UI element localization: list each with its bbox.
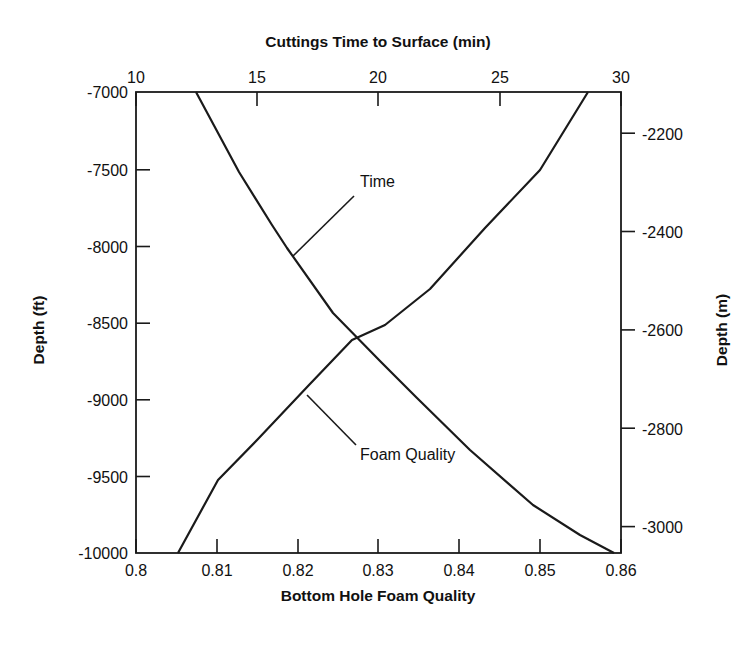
top-tick-label: 10 [127, 69, 145, 86]
bottom-tick-label: 0.82 [282, 562, 313, 579]
top-axis-ticks [136, 92, 621, 106]
foam-quality-leader-line [307, 395, 356, 445]
top-tick-label: 20 [369, 69, 387, 86]
top-axis-title: Cuttings Time to Surface (min) [265, 33, 490, 50]
bottom-tick-label: 0.81 [201, 562, 232, 579]
bottom-tick-label: 0.86 [605, 562, 636, 579]
right-tick-label: -3000 [642, 519, 683, 536]
foam-quality-curve [178, 92, 588, 553]
right-tick-label: -2200 [642, 126, 683, 143]
bottom-tick-label: 0.85 [524, 562, 555, 579]
bottom-tick-label: 0.84 [443, 562, 474, 579]
right-axis-ticks [621, 133, 635, 526]
right-axis-title: Depth (m) [713, 294, 730, 366]
left-tick-label: -8500 [87, 315, 128, 332]
top-tick-label: 15 [248, 69, 266, 86]
left-tick-label: -10000 [78, 545, 128, 562]
right-tick-label: -2800 [642, 421, 683, 438]
left-tick-label: -8000 [87, 239, 128, 256]
bottom-axis-ticks [136, 539, 621, 553]
foam-quality-series-label: Foam Quality [360, 446, 455, 463]
right-tick-label: -2400 [642, 224, 683, 241]
left-axis-ticks [136, 170, 150, 477]
bottom-tick-label: 0.83 [362, 562, 393, 579]
chart-container: Cuttings Time to Surface (min) 10 15 20 … [0, 0, 752, 645]
time-curve [196, 92, 614, 553]
right-tick-label: -2600 [642, 322, 683, 339]
left-axis-tick-labels: -7000 -7500 -8000 -8500 -9000 -9500 -100… [78, 84, 128, 562]
chart-plot: Cuttings Time to Surface (min) 10 15 20 … [0, 0, 752, 645]
left-axis-title: Depth (ft) [30, 296, 47, 365]
top-axis-tick-labels: 10 15 20 25 30 [127, 69, 630, 86]
bottom-tick-label: 0.8 [125, 562, 147, 579]
time-series-label: Time [360, 173, 395, 190]
right-axis-tick-labels: -2200 -2400 -2600 -2800 -3000 [642, 126, 683, 536]
left-tick-label: -7500 [87, 162, 128, 179]
top-tick-label: 25 [491, 69, 509, 86]
left-tick-label: -9000 [87, 392, 128, 409]
time-leader-line [293, 196, 354, 256]
bottom-axis-title: Bottom Hole Foam Quality [281, 587, 476, 604]
left-tick-label: -9500 [87, 469, 128, 486]
plot-frame [136, 92, 621, 553]
left-tick-label: -7000 [87, 84, 128, 101]
bottom-axis-tick-labels: 0.8 0.81 0.82 0.83 0.84 0.85 0.86 [125, 562, 637, 579]
top-tick-label: 30 [612, 69, 630, 86]
